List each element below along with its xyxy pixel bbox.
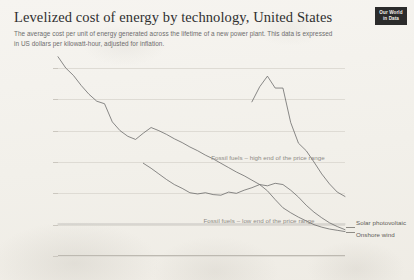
leader-line-onshore-wind	[346, 232, 355, 233]
series-label-onshore-wind: Onshore wind	[356, 231, 395, 238]
series-layer	[0, 0, 414, 280]
annotation-fossil-fuels-high-end: Fossil fuels – high end of the price ran…	[211, 154, 325, 161]
chart-page: Levelized cost of energy by technology, …	[0, 0, 414, 280]
leader-line-solar-photovoltaic	[346, 227, 355, 228]
series-line-solar-photovoltaic	[58, 57, 345, 232]
series-label-solar-photovoltaic: Solar photovoltaic	[356, 219, 406, 226]
series-line-fossil-fuels-high-end-of-the-price-range	[252, 76, 345, 196]
annotation-fossil-fuels-low-end: Fossil fuels – low end of the price rang…	[203, 217, 314, 224]
